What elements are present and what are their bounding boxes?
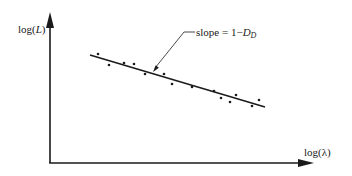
leader-arrowhead-icon — [153, 65, 159, 72]
x-axis-arrowhead-icon — [298, 159, 314, 167]
y-axis-arrowhead-icon — [46, 12, 54, 28]
y-axis-label: log(L) — [18, 23, 46, 35]
data-point — [97, 53, 100, 56]
plot-area — [0, 0, 352, 176]
data-point — [258, 99, 261, 102]
data-point — [108, 64, 111, 67]
data-point — [123, 62, 126, 65]
data-point — [163, 73, 166, 76]
data-point — [213, 90, 216, 93]
data-point — [220, 97, 223, 100]
chart: log(L) log(λ) slope = 1−DD — [0, 0, 352, 176]
x-axis-label: log(λ) — [304, 146, 331, 158]
data-point — [171, 83, 174, 86]
data-point — [229, 101, 232, 104]
slope-annotation: slope = 1−DD — [196, 26, 256, 40]
data-points — [97, 53, 261, 108]
data-point — [133, 63, 136, 66]
axes — [46, 12, 314, 167]
data-point — [251, 105, 254, 108]
data-point — [191, 86, 194, 89]
data-point — [144, 73, 147, 76]
slope-leader-arrow — [153, 32, 195, 72]
regression-line — [90, 55, 265, 107]
data-point — [235, 94, 238, 97]
